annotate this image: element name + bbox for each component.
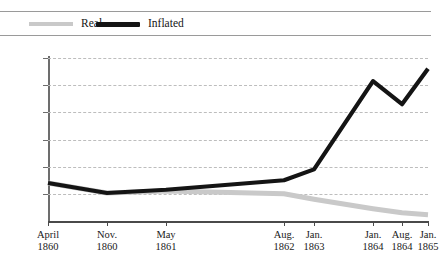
series-line-real — [48, 183, 428, 215]
series-line-inflated — [48, 69, 428, 193]
plot-area: $1000$2000$3000$4000$5000$6000April1860N… — [48, 58, 428, 221]
x-tick-mark — [166, 221, 167, 226]
x-tick-mark — [314, 221, 315, 226]
x-tick-mark — [48, 221, 49, 226]
x-tick-month: Jan. — [304, 229, 325, 241]
series-container — [48, 58, 428, 221]
x-axis-tick-label: Jan.1864 — [363, 229, 384, 253]
x-axis-tick-label: Jan.1863 — [304, 229, 325, 253]
x-tick-year: 1860 — [97, 241, 118, 253]
x-tick-month: Jan. — [363, 229, 384, 241]
legend-rule-top — [0, 11, 431, 12]
x-tick-month: April — [37, 229, 59, 241]
x-axis-tick-label: May1861 — [156, 229, 177, 253]
x-tick-year: 1863 — [304, 241, 325, 253]
x-axis-tick-label: Aug.1862 — [274, 229, 295, 253]
line-swatch-icon — [96, 22, 140, 27]
x-tick-month: Jan. — [418, 229, 439, 241]
legend-label-inflated: Inflated — [148, 18, 184, 30]
legend-rule-bottom — [0, 35, 431, 36]
x-tick-year: 1865 — [418, 241, 439, 253]
x-tick-mark — [373, 221, 374, 226]
x-tick-month: Aug. — [274, 229, 295, 241]
x-axis-tick-label: Jan.1865 — [418, 229, 439, 253]
x-tick-mark — [107, 221, 108, 226]
x-tick-year: 1864 — [392, 241, 413, 253]
x-tick-month: Aug. — [392, 229, 413, 241]
chart-legend: Real Inflated — [0, 14, 431, 34]
x-axis-tick-label: Nov.1860 — [97, 229, 118, 253]
line-swatch-icon — [29, 22, 73, 26]
x-tick-year: 1862 — [274, 241, 295, 253]
x-tick-year: 1861 — [156, 241, 177, 253]
x-tick-mark — [428, 221, 429, 226]
x-tick-mark — [402, 221, 403, 226]
x-axis-line — [48, 221, 428, 223]
x-tick-month: Nov. — [97, 229, 118, 241]
x-axis-tick-label: Aug.1864 — [392, 229, 413, 253]
x-axis-tick-label: April1860 — [37, 229, 59, 253]
x-tick-mark — [284, 221, 285, 226]
x-tick-year: 1860 — [37, 241, 59, 253]
legend-item-inflated: Inflated — [96, 14, 184, 34]
x-tick-year: 1864 — [363, 241, 384, 253]
x-tick-month: May — [156, 229, 177, 241]
legend-item-real: Real — [29, 14, 102, 34]
